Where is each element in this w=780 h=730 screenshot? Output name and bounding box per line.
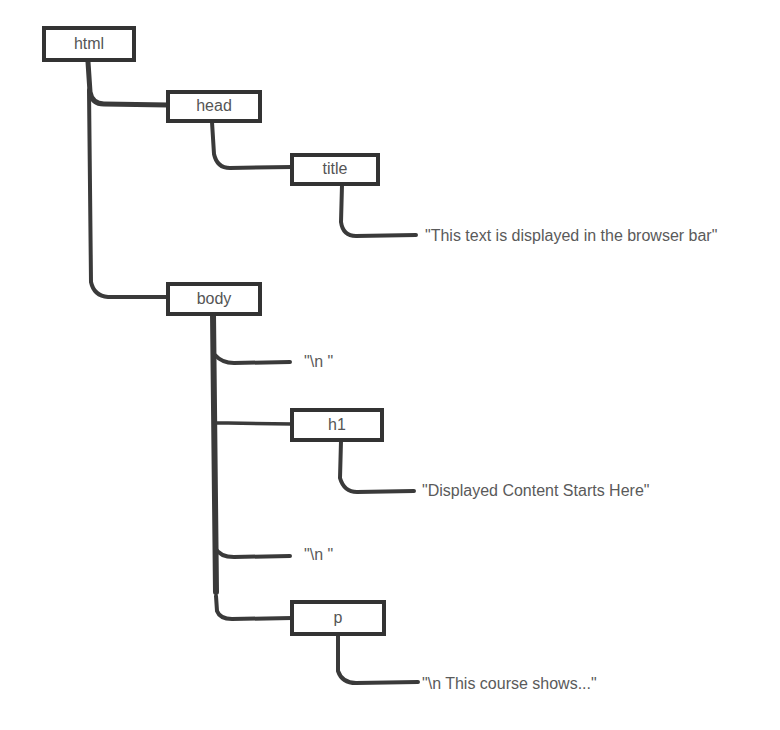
edge-html-body (89, 90, 168, 297)
text-node-whitespace-1: "\n " (304, 354, 333, 370)
edge-html-head (88, 62, 168, 105)
edge-body-p (216, 596, 292, 619)
edge-head-title (212, 122, 292, 168)
edge-body-ws2 (215, 548, 290, 557)
text-node-p: "\n This course shows..." (422, 676, 597, 692)
node-h1-label: h1 (328, 417, 346, 433)
text-node-whitespace-2: "\n " (304, 547, 333, 563)
edge-body-h1 (215, 423, 292, 424)
node-html: html (42, 26, 136, 62)
dom-tree-connectors (0, 0, 780, 730)
text-node-h1: "Displayed Content Starts Here" (422, 483, 649, 499)
edge-body-ws1 (215, 355, 290, 363)
edge-p-text (338, 636, 418, 683)
edge-title-text (341, 185, 416, 236)
node-p-label: p (334, 610, 343, 626)
node-body-label: body (197, 291, 232, 307)
node-body: body (166, 282, 262, 316)
node-title: title (290, 153, 380, 186)
node-head-label: head (196, 98, 232, 114)
node-title-label: title (323, 161, 348, 177)
node-h1: h1 (290, 408, 384, 442)
node-p: p (290, 600, 386, 636)
edge-h1-text (340, 441, 414, 492)
text-node-title: "This text is displayed in the browser b… (425, 228, 717, 244)
node-head: head (166, 90, 262, 123)
node-html-label: html (74, 36, 104, 52)
